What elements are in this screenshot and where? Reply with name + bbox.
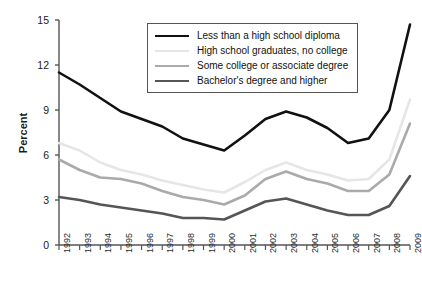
legend-item-0[interactable]: Less than a high school diploma: [148, 28, 357, 43]
x-tick-label: 2006: [352, 233, 361, 253]
legend-swatch-1: [155, 50, 189, 52]
x-tick-label: 1999: [208, 233, 217, 253]
x-tick-label: 2009: [414, 233, 422, 253]
legend: Less than a high school diplomaHigh scho…: [147, 23, 358, 93]
x-tick-label: 2002: [269, 233, 278, 253]
x-tick-label: 1994: [104, 233, 113, 253]
legend-label-1: High school graduates, no college: [197, 45, 348, 56]
x-tick-label: 2000: [228, 233, 237, 253]
y-tick-label: 3: [27, 195, 49, 206]
x-tick-label: 2004: [311, 233, 320, 253]
legend-swatch-3: [155, 80, 189, 82]
legend-item-2[interactable]: Some college or associate degree: [148, 58, 357, 73]
x-tick-label: 1993: [84, 233, 93, 253]
legend-label-3: Bachelor's degree and higher: [197, 75, 327, 86]
legend-label-2: Some college or associate degree: [197, 60, 348, 71]
x-tick-label: 2008: [393, 233, 402, 253]
x-tick-label: 1996: [146, 233, 155, 253]
y-tick-label: 6: [27, 150, 49, 161]
x-tick-label: 2005: [331, 233, 340, 253]
x-tick-label: 1997: [166, 233, 175, 253]
series-line-3: [59, 176, 410, 220]
x-tick-label: 1992: [63, 233, 72, 253]
legend-item-1[interactable]: High school graduates, no college: [148, 43, 357, 58]
legend-swatch-0: [155, 35, 189, 37]
y-tick-label: 0: [27, 240, 49, 251]
line-chart: Percent 03691215 19921993199419951996199…: [0, 0, 422, 301]
y-tick-label: 9: [27, 105, 49, 116]
legend-label-0: Less than a high school diploma: [197, 30, 340, 41]
y-tick-label: 12: [27, 60, 49, 71]
x-tick-label: 1995: [125, 233, 134, 253]
legend-swatch-2: [155, 65, 189, 67]
x-tick-label: 2003: [290, 233, 299, 253]
y-tick-label: 15: [27, 15, 49, 26]
x-tick-label: 1998: [187, 233, 196, 253]
series-line-2: [59, 124, 410, 205]
x-tick-label: 2001: [249, 233, 258, 253]
x-tick-label: 2007: [373, 233, 382, 253]
legend-item-3[interactable]: Bachelor's degree and higher: [148, 73, 357, 88]
